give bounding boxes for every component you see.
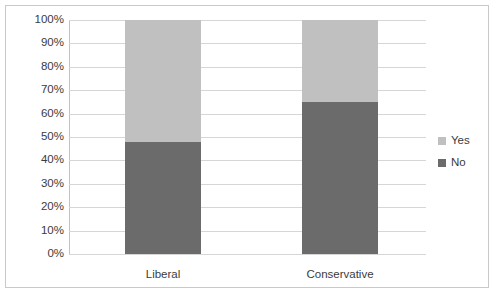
y-tick-20: 20% bbox=[12, 201, 64, 213]
y-tick-40: 40% bbox=[12, 155, 64, 167]
y-tick-90: 90% bbox=[12, 38, 64, 50]
y-tick-100: 100% bbox=[12, 14, 64, 26]
x-tick-conservative: Conservative bbox=[306, 268, 373, 280]
y-tick-50: 50% bbox=[12, 131, 64, 143]
chart-frame: 100% 90% 80% 70% 60% 50% 40% 30% 20% 10%… bbox=[5, 5, 489, 288]
y-tick-0: 0% bbox=[12, 248, 64, 260]
bar-segment-liberal-yes[interactable] bbox=[125, 20, 201, 142]
gridline-0 bbox=[69, 254, 426, 255]
bar-segment-conservative-yes[interactable] bbox=[302, 20, 378, 102]
y-tick-30: 30% bbox=[12, 178, 64, 190]
bar-segment-liberal-no[interactable] bbox=[125, 142, 201, 254]
chart-legend: Yes No bbox=[438, 130, 486, 174]
legend-label-yes: Yes bbox=[451, 135, 470, 147]
bar-liberal[interactable] bbox=[125, 20, 201, 254]
legend-label-no: No bbox=[451, 157, 466, 169]
y-tick-70: 70% bbox=[12, 84, 64, 96]
legend-swatch-no-icon bbox=[438, 159, 446, 167]
bar-segment-conservative-no[interactable] bbox=[302, 102, 378, 254]
plot-area bbox=[69, 20, 426, 254]
y-tick-60: 60% bbox=[12, 108, 64, 120]
y-tick-10: 10% bbox=[12, 225, 64, 237]
legend-swatch-yes-icon bbox=[438, 137, 446, 145]
y-axis-tick-labels: 100% 90% 80% 70% 60% 50% 40% 30% 20% 10%… bbox=[6, 20, 64, 254]
y-tick-80: 80% bbox=[12, 61, 64, 73]
bar-conservative[interactable] bbox=[302, 20, 378, 254]
legend-item-no[interactable]: No bbox=[438, 152, 486, 174]
x-tick-liberal: Liberal bbox=[146, 268, 181, 280]
legend-item-yes[interactable]: Yes bbox=[438, 130, 486, 152]
